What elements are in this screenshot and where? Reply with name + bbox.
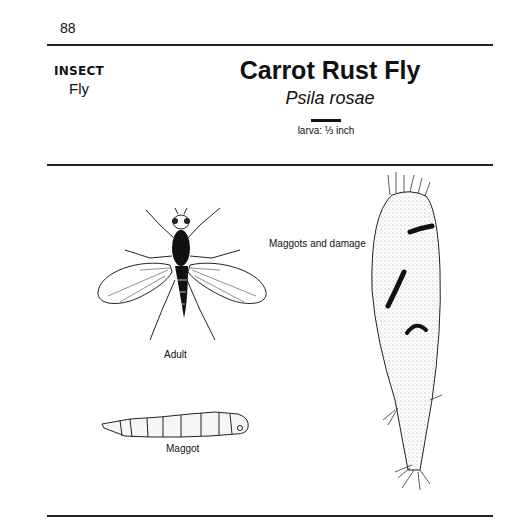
bottom-rule — [47, 515, 493, 517]
carrot-caption: Maggots and damage — [269, 238, 366, 249]
carrot-illustration — [0, 0, 513, 529]
